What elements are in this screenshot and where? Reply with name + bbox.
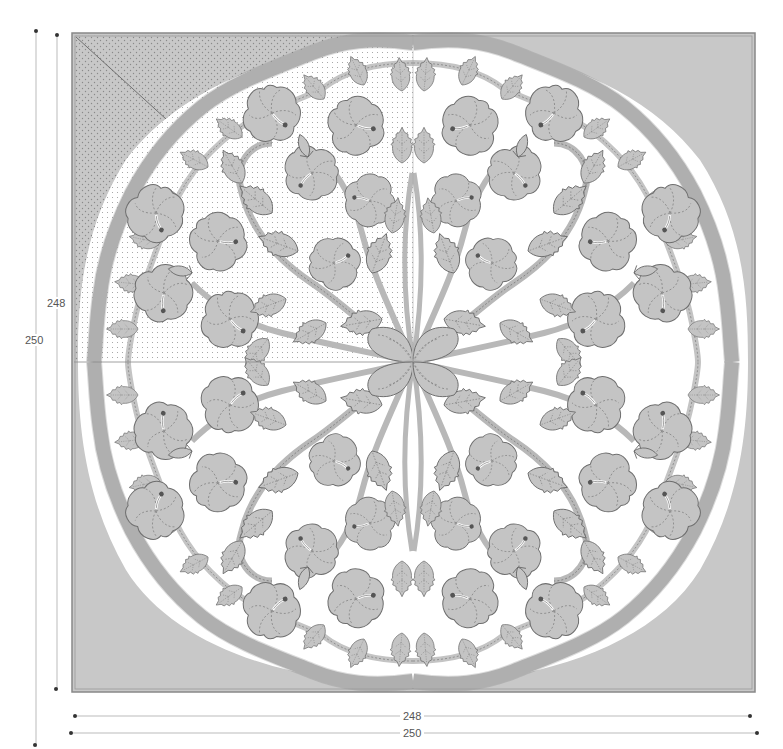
dimension-label-vertical-inner: 248	[44, 297, 68, 309]
quilt-diagram: 248 250 248 250	[0, 0, 783, 749]
dimension-label-horizontal-inner: 248	[400, 710, 424, 722]
dimension-label-vertical-outer: 250	[22, 334, 46, 346]
quilt-panel	[72, 33, 755, 692]
dimension-label-horizontal-outer: 250	[400, 727, 424, 739]
